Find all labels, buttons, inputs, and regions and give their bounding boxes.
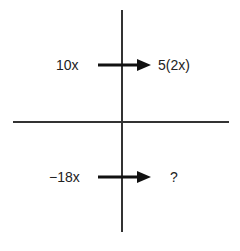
bottom-arrow-icon bbox=[97, 170, 153, 184]
horizontal-divider bbox=[13, 121, 229, 123]
bottom-output-unknown: ? bbox=[170, 169, 178, 185]
bottom-input-expression: −18x bbox=[49, 169, 80, 185]
top-arrow-icon bbox=[97, 58, 153, 72]
top-input-expression: 10x bbox=[56, 57, 79, 73]
top-output-expression: 5(2x) bbox=[158, 57, 190, 73]
